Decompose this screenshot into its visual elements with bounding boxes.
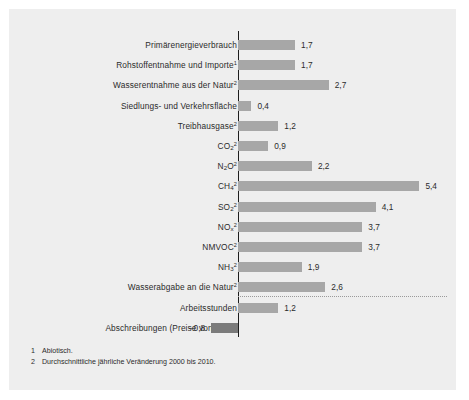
category-label: Wasserentnahme aus der Natur2 bbox=[113, 80, 237, 90]
chart-row: CO220,9 bbox=[9, 136, 456, 156]
bar-positive bbox=[238, 242, 362, 252]
chart-row: NOx23,7 bbox=[9, 217, 456, 237]
bar-positive bbox=[238, 161, 312, 171]
bar-positive bbox=[238, 222, 362, 232]
chart-row: Arbeitsstunden1,2 bbox=[9, 298, 456, 318]
chart-row: NH321,9 bbox=[9, 257, 456, 277]
category-label: Treibhausgase2 bbox=[178, 121, 237, 131]
category-label: Arbeitsstunden bbox=[180, 303, 237, 313]
category-label: CO22 bbox=[218, 141, 237, 152]
bar-value-label: 0,4 bbox=[257, 101, 269, 111]
chart-row: Primärenergieverbrauch1,7 bbox=[9, 35, 456, 55]
bar-value-label: 3,7 bbox=[368, 242, 380, 252]
bar-value-label: 1,2 bbox=[284, 303, 296, 313]
category-label: Siedlungs- und Verkehrsfläche bbox=[121, 101, 237, 111]
category-label: NOx2 bbox=[218, 222, 237, 233]
category-label: CH42 bbox=[218, 181, 237, 192]
bar-positive bbox=[238, 282, 325, 292]
bar-value-label: −0,8 bbox=[189, 323, 205, 333]
footnote-text: Abiotisch. bbox=[42, 347, 73, 355]
bar-positive bbox=[238, 181, 419, 191]
footnote-number: 1 bbox=[31, 346, 42, 357]
chart-row: N2O22,2 bbox=[9, 156, 456, 176]
bar-value-label: 1,7 bbox=[301, 60, 313, 70]
chart-row: Rohstoffentnahme und Importe11,7 bbox=[9, 55, 456, 75]
bar-chart-plot: Primärenergieverbrauch1,7Rohstoffentnahm… bbox=[9, 9, 456, 390]
bar-value-label: 2,2 bbox=[318, 161, 330, 171]
bar-positive bbox=[238, 80, 329, 90]
bar-value-label: 1,7 bbox=[301, 40, 313, 50]
category-label: Rohstoffentnahme und Importe1 bbox=[116, 60, 237, 70]
bar-positive bbox=[238, 121, 278, 131]
bar-value-label: 4,1 bbox=[382, 202, 394, 212]
bar-positive bbox=[238, 262, 302, 272]
category-label: SO22 bbox=[218, 201, 237, 212]
footnote-text: Durchschnittliche jährliche Veränderung … bbox=[42, 358, 216, 366]
bar-value-label: 0,9 bbox=[274, 141, 286, 151]
footnote-item: 2Durchschnittliche jährliche Veränderung… bbox=[31, 357, 411, 368]
category-label: NMVOC2 bbox=[202, 242, 237, 252]
bar-positive bbox=[238, 101, 251, 111]
bar-value-label: 2,6 bbox=[331, 282, 343, 292]
bar-value-label: 1,9 bbox=[308, 262, 320, 272]
footnote-number: 2 bbox=[31, 357, 42, 368]
chart-row: Wasserabgabe an die Natur22,6 bbox=[9, 277, 456, 297]
bar-value-label: 3,7 bbox=[368, 222, 380, 232]
chart-row: CH425,4 bbox=[9, 176, 456, 196]
bar-positive bbox=[238, 60, 295, 70]
bar-positive bbox=[238, 40, 295, 50]
chart-row: Siedlungs- und Verkehrsfläche0,4 bbox=[9, 96, 456, 116]
bar-positive bbox=[238, 303, 278, 313]
chart-row: SO224,1 bbox=[9, 197, 456, 217]
bar-value-label: 5,4 bbox=[425, 181, 437, 191]
bar-negative bbox=[211, 323, 238, 333]
category-label: Wasserabgabe an die Natur2 bbox=[128, 282, 237, 292]
cropped-title-sliver bbox=[0, 0, 469, 9]
chart-row: NMVOC23,7 bbox=[9, 237, 456, 257]
bar-value-label: 2,7 bbox=[335, 80, 347, 90]
chart-row: Wasserentnahme aus der Natur22,7 bbox=[9, 75, 456, 95]
bar-positive bbox=[238, 202, 376, 212]
chart-row: Treibhausgase21,2 bbox=[9, 116, 456, 136]
category-label: NH32 bbox=[218, 262, 237, 273]
chart-row: Abschreibungen (Preise von 2000)−0,8 bbox=[9, 318, 456, 338]
bar-value-label: 1,2 bbox=[284, 121, 296, 131]
category-label: Primärenergieverbrauch bbox=[145, 40, 237, 50]
bar-positive bbox=[238, 141, 268, 151]
footnote-item: 1Abiotisch. bbox=[31, 346, 411, 357]
category-label: N2O2 bbox=[218, 161, 238, 172]
chart-panel: Primärenergieverbrauch1,7Rohstoffentnahm… bbox=[9, 9, 456, 390]
footnotes-block: 1Abiotisch.2Durchschnittliche jährliche … bbox=[31, 346, 411, 367]
